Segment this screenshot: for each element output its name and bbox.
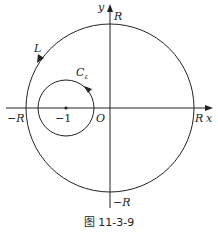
tick-left-label: −R xyxy=(7,112,25,125)
figure-caption: 图 11-3-9 xyxy=(84,216,134,229)
contour-l-label: L xyxy=(33,42,41,55)
x-axis-label: x xyxy=(206,112,213,125)
contour-c-eps-label: Cε xyxy=(76,66,88,81)
tick-right-label: R xyxy=(194,112,203,125)
x-axis-arrow-icon xyxy=(205,105,213,111)
origin-label: O xyxy=(96,112,105,125)
y-axis-label: y xyxy=(97,1,105,14)
tick-top-label: R xyxy=(113,10,122,23)
y-axis-arrow-icon xyxy=(107,4,113,12)
contour-diagram: y R x R −R −R O −1 L Cε 图 11-3-9 xyxy=(0,0,218,233)
center-point xyxy=(64,106,67,109)
tick-bottom-label: −R xyxy=(113,196,131,209)
center-value-label: −1 xyxy=(55,112,71,125)
contour-c-eps-arrow-icon xyxy=(84,86,92,93)
